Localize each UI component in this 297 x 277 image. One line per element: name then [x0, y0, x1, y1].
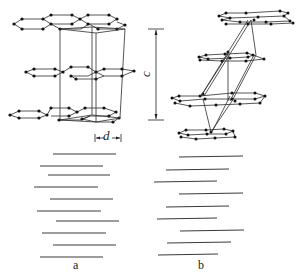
layer-a-middle	[24, 65, 135, 80]
unit-cell-b	[201, 20, 256, 132]
layer-b-4	[178, 128, 237, 141]
panel-b-structure	[148, 10, 295, 256]
crystal-structure-diagram	[0, 0, 297, 277]
layer-b-1	[218, 10, 295, 26]
dimension-label-d: d	[103, 128, 110, 144]
dimension-label-c: c	[138, 71, 154, 77]
panel-label-b: b	[198, 258, 204, 273]
panel-label-a: a	[73, 258, 78, 273]
edge-view-a	[34, 154, 119, 257]
panel-a-structure	[8, 13, 135, 257]
edge-view-b	[154, 156, 244, 255]
layer-b-3	[171, 92, 267, 108]
